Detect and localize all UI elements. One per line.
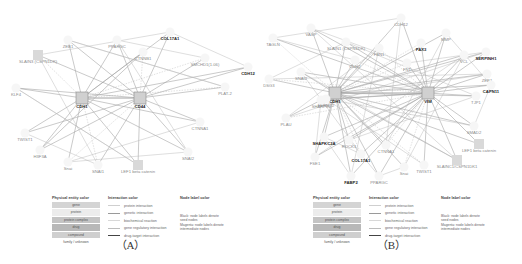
interaction-label: biochemical reaction [385,219,418,223]
interaction-edge [428,33,446,93]
network-node[interactable]: CDH2 [349,56,361,70]
interaction-edge [140,98,200,122]
hub-node [134,92,146,104]
legend-heading: Node label color [441,196,485,200]
network-node[interactable]: SLAIN1 (CSPN1DK) [327,38,366,52]
interaction-edge [140,98,188,152]
node-label: PPARGC [370,180,387,185]
node-label: SMCHD1(1.06) [191,62,220,67]
entity-color-swatch: protein complex [313,217,361,223]
node-label: LEF1 beta catenin [121,169,156,174]
interaction-label: genetic interaction [385,211,414,215]
node-label-note: intermediate nodes [441,227,485,231]
network-node[interactable]: TWIST1 [17,129,33,143]
interaction-edge [386,93,428,145]
network-node[interactable]: SHAPKC2A [312,133,335,147]
interaction-edge [140,32,170,98]
interaction-edge [273,18,401,38]
network-panel-a: SLAIN3 (CSPN1DK)ZEB1PPARGCCOL17A1CTNNB1S… [0,0,261,264]
interaction-edge [349,96,476,140]
network-node[interactable]: LEF1 beta catenin [462,139,497,153]
network-node[interactable]: ZEB1 [63,36,74,50]
panel-caption-a: （A） [0,236,261,252]
network-node[interactable]: COL17A1 [352,150,372,164]
network-node[interactable]: TAGLN [266,34,280,48]
node-label-note: intermediate nodes [180,227,224,231]
node-label: PLAT-2 [218,91,232,96]
interaction-edge [16,88,82,98]
network-panel-b: TAGLNVASPSLAIN1 (CSPN1DK)CDH12FBN1PAX3MM… [261,0,522,264]
network-node[interactable]: ROCK1 [342,136,357,150]
network-node[interactable]: FBN1 [374,44,385,58]
network-node[interactable]: VIM [422,87,434,104]
interaction-edge [117,40,188,152]
interaction-edge [269,79,335,93]
network-node[interactable]: SMCHD1(1.06) [191,54,220,68]
network-node[interactable]: PLAU [281,114,292,128]
legend-heading: Node label color [180,196,224,200]
network-node[interactable]: TWIST1 [416,161,432,175]
node-label: CDH2 [349,64,361,69]
entity-color-swatch: protein complex [52,217,100,223]
network-node[interactable]: MMP [441,29,451,43]
interaction-label: gene regulatory interaction [385,226,428,230]
interaction-line-swatch [108,228,120,229]
node-label: COL17A1 [161,36,181,41]
network-node[interactable]: FN1 [403,59,412,73]
network-node[interactable]: Snai [64,158,73,172]
interaction-edge [401,18,428,93]
node-label: CD44 [135,104,146,109]
legend-heading: Interaction color [108,196,167,200]
node-label: FABP2 [344,180,358,185]
network-node[interactable]: CTNNA1 [378,141,395,155]
network-node[interactable]: PAX3 [416,39,427,53]
network-node[interactable]: FABP2 [344,172,358,186]
node-label: SNAI2 [182,156,195,161]
network-node[interactable]: SLAINC1/CSPN1DK1 [437,155,478,169]
interaction-legend: Interaction colorprotein interactiongene… [108,196,167,240]
network-node[interactable]: CDH1 [329,87,341,104]
network-node[interactable]: VCL [460,51,469,65]
node-label: COL17A1 [352,158,372,163]
interaction-line-swatch [369,228,381,229]
network-graph-a: SLAIN3 (CSPN1DK)ZEB1PPARGCCOL17A1CTNNB1S… [0,0,261,190]
network-node[interactable]: PPARGC [370,172,387,186]
network-node[interactable]: COL17A1 [161,28,181,42]
interaction-edge [335,93,351,176]
network-node[interactable]: CDH12 [394,14,408,28]
node-label: SHAPKC2A [312,141,335,146]
interaction-legend-row: gene regulatory interaction [369,225,428,233]
interaction-line-swatch [369,213,381,214]
network-node[interactable]: CTNNB1 [135,48,152,62]
network-node[interactable]: CD44 [134,92,146,109]
node-label: VASP [306,32,317,37]
interaction-edge [361,93,428,154]
interaction-edge [386,18,401,145]
network-node[interactable]: LEF1 beta catenin [121,160,156,174]
network-node[interactable]: KLF4 [11,84,22,98]
node-label: FN1 [403,67,412,72]
interaction-edge [335,93,479,144]
node-label: CDH12 [394,22,408,27]
network-node[interactable]: SNAI2 [182,148,195,162]
node-label: LEF1 beta catenin [462,148,497,153]
interaction-edge [38,32,170,55]
network-node[interactable]: SNAI1 [92,161,105,175]
interaction-legend-row: protein interaction [369,202,428,210]
network-node[interactable]: SNAI2 [295,68,308,82]
network-node[interactable]: Snai [400,163,409,177]
entity-color-swatch: protein [52,209,100,215]
network-node[interactable]: SMAD2 [467,122,482,136]
network-node[interactable]: DSG3 [263,75,275,89]
network-node[interactable]: CDH1 [76,92,88,109]
node-label: CDH12 [241,71,255,76]
network-node[interactable]: SLAIN3 (CSPN1DK) [19,50,58,64]
node-label: FSE1 [310,161,321,166]
network-node[interactable]: CDH12 [241,63,255,77]
node-label: MMP [441,37,451,42]
interaction-edge [68,122,200,162]
network-node[interactable]: PLAT-2 [218,83,232,97]
network-node[interactable]: TJP1 [471,92,481,106]
node-label: SLAIN3 (CSPN1DK) [19,59,58,64]
interaction-label: gene regulatory interaction [124,226,167,230]
